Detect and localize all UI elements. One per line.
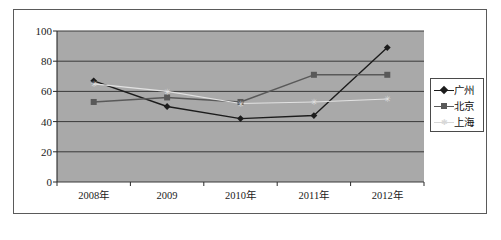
data-point-北京-2012年 — [384, 72, 390, 78]
legend-label-beijing: 北京 — [454, 100, 474, 112]
square-marker-icon — [441, 103, 447, 109]
data-point-上海-2012年: ✳ — [384, 94, 391, 104]
chart-legend: 广州 北京 ✱ 上海 — [430, 78, 484, 132]
data-point-上海-2009: ✳ — [164, 87, 171, 97]
y-tick-label: 20 — [16, 146, 52, 157]
data-point-上海-2010年: ✳ — [237, 99, 244, 109]
diamond-marker-icon — [440, 86, 448, 94]
y-tick-label: 0 — [16, 177, 52, 188]
legend-swatch-beijing — [434, 100, 454, 112]
x-tick-label: 2012年 — [372, 191, 403, 202]
star-marker-icon: ✱ — [441, 119, 448, 126]
x-tick-label: 2011年 — [299, 191, 330, 202]
data-point-北京-2008年 — [91, 99, 97, 105]
y-tick-label: 100 — [16, 26, 52, 37]
y-tick-label: 60 — [16, 86, 52, 97]
legend-item-beijing: 北京 — [434, 98, 481, 114]
data-point-上海-2008年: ✳ — [90, 79, 97, 89]
x-tick-label: 2009 — [157, 191, 178, 202]
legend-swatch-shanghai: ✱ — [434, 116, 454, 128]
legend-label-guangzhou: 广州 — [454, 84, 474, 96]
data-point-北京-2011年 — [311, 72, 317, 78]
x-tick-label: 2010年 — [225, 191, 256, 202]
y-tick-label: 40 — [16, 116, 52, 127]
y-tick-label: 80 — [16, 56, 52, 67]
x-tick-label: 2008年 — [78, 191, 109, 202]
legend-item-shanghai: ✱ 上海 — [434, 114, 481, 130]
legend-item-guangzhou: 广州 — [434, 82, 481, 98]
legend-label-shanghai: 上海 — [454, 116, 474, 128]
legend-swatch-guangzhou — [434, 84, 454, 96]
data-point-上海-2011年: ✳ — [310, 97, 317, 107]
